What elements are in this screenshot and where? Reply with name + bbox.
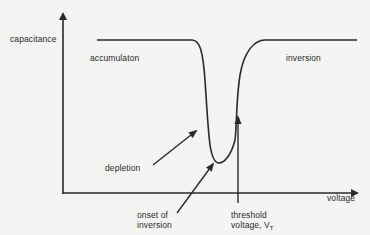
- y-axis-label: capacitance: [10, 34, 56, 44]
- onset-of-inversion-label: onset of inversion: [137, 210, 172, 230]
- x-axis-label: voltage: [327, 193, 355, 203]
- threshold-label-prefix: voltage, V: [231, 220, 270, 230]
- inversion-label: inversion: [286, 53, 321, 63]
- onset-label-line2: inversion: [137, 220, 172, 230]
- depletion-arrow: [153, 131, 196, 165]
- threshold-label-line2: voltage, VT: [231, 220, 274, 233]
- onset-label-line1: onset of: [137, 210, 172, 220]
- onset-arrow: [177, 164, 213, 213]
- depletion-label: depletion: [105, 163, 140, 173]
- threshold-voltage-label: threshold voltage, VT: [231, 210, 274, 233]
- threshold-subscript: T: [270, 225, 274, 231]
- accumulation-label: accumulaton: [90, 53, 139, 63]
- threshold-label-line1: threshold: [231, 210, 274, 220]
